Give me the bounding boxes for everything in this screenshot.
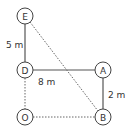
label-ed: 5 m [6, 40, 23, 50]
distance-diagram: 5 m 8 m 2 m E D A O B [0, 0, 129, 134]
label-da: 8 m [38, 77, 55, 87]
edge-e-b [30, 22, 98, 111]
label-ab: 2 m [108, 90, 125, 100]
node-b: B [95, 109, 111, 125]
node-e-label: E [22, 12, 28, 22]
node-d: D [17, 62, 33, 78]
node-d-label: D [22, 66, 29, 76]
node-o: O [17, 109, 33, 125]
node-a: A [95, 62, 111, 78]
node-o-label: O [21, 113, 28, 123]
node-e: E [17, 8, 33, 24]
node-a-label: A [100, 66, 107, 76]
node-b-label: B [100, 113, 106, 123]
